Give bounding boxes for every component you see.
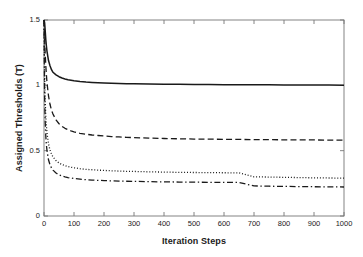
x-tick-label: 200 [87, 219, 121, 228]
x-tick-label: 800 [267, 219, 301, 228]
x-tick-label: 300 [117, 219, 151, 228]
x-tick-label: 600 [207, 219, 241, 228]
x-tick-label: 1000 [327, 219, 361, 228]
curve-curve-4 [44, 20, 344, 187]
x-tick-label: 400 [147, 219, 181, 228]
x-tick-label: 100 [57, 219, 91, 228]
x-tick-label: 700 [237, 219, 271, 228]
x-tick-label: 900 [297, 219, 331, 228]
curve-curve-1 [44, 20, 344, 85]
y-axis-title: Assigned Thresholds (T) [14, 20, 28, 216]
data-curves [44, 20, 344, 187]
x-tick-label: 500 [177, 219, 211, 228]
chart-figure: 01002003004005006007008009001000 00.511.… [0, 0, 363, 257]
curve-curve-3 [44, 20, 344, 178]
x-axis-title: Iteration Steps [44, 236, 344, 246]
x-tick-label: 0 [27, 219, 61, 228]
curve-curve-2 [44, 20, 344, 140]
